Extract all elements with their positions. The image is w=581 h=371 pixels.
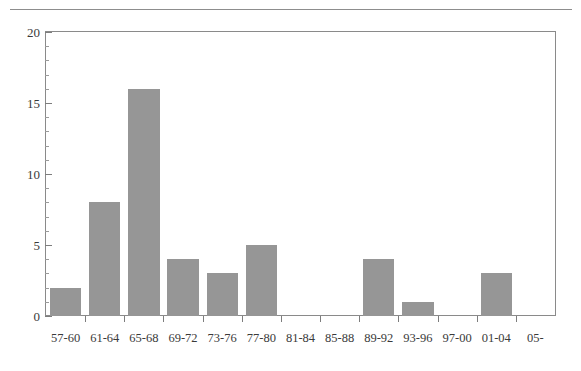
- bar: [481, 273, 512, 316]
- y-tick-label: 5: [2, 239, 40, 252]
- bars-layer: [46, 32, 555, 316]
- y-tick-minor: [45, 89, 49, 90]
- bar: [363, 259, 394, 316]
- y-tick-minor: [45, 75, 49, 76]
- x-tick-label: 85-88: [325, 331, 354, 345]
- x-tick-label: 89-92: [364, 331, 393, 345]
- y-tick-minor: [45, 131, 49, 132]
- y-tick-major: [45, 316, 52, 317]
- y-tick-label: 15: [2, 97, 40, 110]
- y-tick-minor: [45, 231, 49, 232]
- y-tick-minor: [45, 160, 49, 161]
- y-axis: 05101520: [0, 0, 40, 371]
- y-tick-minor: [45, 217, 49, 218]
- top-divider-rule: [10, 9, 572, 10]
- bar: [246, 245, 277, 316]
- x-tick: [398, 316, 399, 322]
- x-tick: [124, 316, 125, 322]
- y-tick-major: [45, 103, 52, 104]
- x-tick-label: 77-80: [247, 331, 276, 345]
- y-tick-minor: [45, 288, 49, 289]
- y-tick-minor: [45, 188, 49, 189]
- y-tick-minor: [45, 302, 49, 303]
- y-tick-minor: [45, 117, 49, 118]
- x-tick-label: 69-72: [168, 331, 197, 345]
- x-tick: [281, 316, 282, 322]
- x-tick: [477, 316, 478, 322]
- x-tick: [359, 316, 360, 322]
- bar: [207, 273, 238, 316]
- y-tick-major: [45, 32, 52, 33]
- bar: [402, 302, 433, 316]
- y-tick-minor: [45, 60, 49, 61]
- x-tick: [85, 316, 86, 322]
- x-tick-label: 97-00: [443, 331, 472, 345]
- x-tick-label: 57-60: [51, 331, 80, 345]
- x-tick-label: 05-: [527, 331, 544, 345]
- bar: [167, 259, 198, 316]
- y-tick-minor: [45, 146, 49, 147]
- y-tick-major: [45, 245, 52, 246]
- x-tick: [516, 316, 517, 322]
- y-tick-label: 20: [2, 26, 40, 39]
- y-tick-minor: [45, 202, 49, 203]
- y-tick-label: 0: [2, 310, 40, 323]
- x-tick-label: 93-96: [403, 331, 432, 345]
- chart-figure: 05101520 57-6061-6465-6869-7273-7677-808…: [0, 0, 581, 371]
- bar: [89, 202, 120, 316]
- x-tick: [438, 316, 439, 322]
- y-tick-minor: [45, 273, 49, 274]
- x-tick: [203, 316, 204, 322]
- x-tick-label: 61-64: [90, 331, 119, 345]
- x-tick-label: 65-68: [129, 331, 158, 345]
- x-tick: [320, 316, 321, 322]
- x-tick: [242, 316, 243, 322]
- y-tick-minor: [45, 259, 49, 260]
- bar: [128, 89, 159, 316]
- x-tick-label: 73-76: [208, 331, 237, 345]
- y-tick-major: [45, 174, 52, 175]
- x-tick-label: 81-84: [286, 331, 315, 345]
- x-tick-label: 01-04: [482, 331, 511, 345]
- y-tick-minor: [45, 46, 49, 47]
- bar: [50, 288, 81, 316]
- x-tick: [163, 316, 164, 322]
- y-tick-label: 10: [2, 168, 40, 181]
